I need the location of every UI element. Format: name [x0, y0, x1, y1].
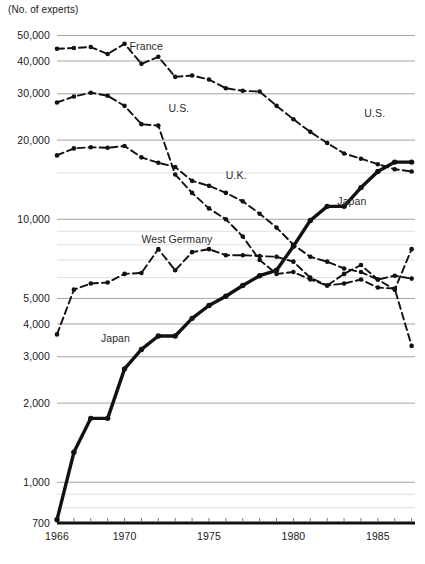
- data-point: [189, 316, 194, 321]
- series-line-u-k: [57, 146, 412, 280]
- data-point: [156, 123, 161, 128]
- data-point: [359, 263, 364, 268]
- data-point: [156, 333, 161, 338]
- y-axis-tick-label: 20,000: [17, 134, 50, 146]
- data-point: [207, 206, 212, 211]
- data-point: [105, 146, 110, 151]
- data-point: [190, 191, 195, 196]
- data-point: [325, 283, 330, 288]
- data-point: [240, 89, 245, 94]
- data-point: [392, 286, 397, 291]
- data-point: [122, 366, 127, 371]
- data-point: [359, 270, 364, 275]
- data-point: [224, 191, 229, 196]
- data-point: [173, 172, 178, 177]
- data-point: [139, 122, 144, 127]
- y-axis-tick-label: 2,000: [23, 397, 50, 409]
- data-point: [409, 247, 414, 252]
- data-point: [190, 73, 195, 78]
- data-point: [88, 45, 93, 50]
- y-axis-tick-label: 700: [32, 517, 50, 529]
- data-point: [291, 259, 296, 264]
- data-point: [392, 159, 397, 164]
- y-axis-tick-label: 40,000: [17, 55, 50, 67]
- data-point: [122, 104, 127, 109]
- y-axis-tick-label: 30,000: [17, 87, 50, 99]
- data-point: [55, 46, 60, 51]
- data-point: [156, 54, 161, 59]
- data-point: [190, 179, 195, 184]
- data-point: [291, 117, 296, 122]
- x-axis-tick-label: 1970: [113, 530, 137, 542]
- data-point: [308, 218, 313, 223]
- data-point: [173, 75, 178, 80]
- data-point: [240, 199, 245, 204]
- data-point: [139, 62, 144, 67]
- experts-line-chart: (No. of experts) 50,00040,00030,00020,00…: [0, 0, 425, 564]
- data-point: [324, 204, 329, 209]
- data-point: [274, 268, 279, 273]
- series-line-west-germany: [57, 249, 412, 346]
- data-point: [88, 416, 93, 421]
- data-point: [173, 268, 178, 273]
- chart-plot-area: 50,00040,00030,00020,00010,0005,0004,000…: [0, 0, 425, 564]
- data-point: [274, 225, 279, 230]
- data-point: [359, 156, 364, 161]
- data-point: [105, 280, 110, 285]
- data-point: [223, 293, 228, 298]
- x-axis-tick-label: 1966: [45, 530, 69, 542]
- data-point: [207, 184, 212, 189]
- series-label-japan-2: Japan: [337, 195, 366, 207]
- data-point: [72, 287, 77, 292]
- data-point: [224, 253, 229, 258]
- x-axis-tick-label: 1985: [366, 530, 390, 542]
- data-point: [55, 332, 60, 337]
- data-point: [224, 217, 229, 222]
- data-point: [240, 234, 245, 239]
- data-point: [342, 281, 347, 286]
- data-point: [409, 169, 414, 174]
- data-point: [342, 272, 347, 277]
- data-point: [240, 283, 245, 288]
- data-point: [71, 450, 76, 455]
- data-point: [139, 155, 144, 160]
- data-point: [409, 276, 414, 281]
- data-point: [72, 94, 77, 99]
- data-point: [257, 258, 262, 263]
- data-point: [206, 303, 211, 308]
- data-point: [257, 273, 262, 278]
- data-point: [190, 250, 195, 255]
- data-point: [55, 153, 60, 158]
- x-axis-tick-label: 1980: [282, 530, 306, 542]
- data-point: [308, 255, 313, 260]
- data-point: [376, 285, 381, 290]
- data-point: [342, 151, 347, 156]
- data-point: [376, 277, 381, 282]
- x-axis-tick-label: 1975: [197, 530, 221, 542]
- y-axis-tick-label: 50,000: [17, 29, 50, 41]
- y-axis-tick-label: 5,000: [23, 292, 50, 304]
- data-point: [257, 89, 262, 94]
- data-point: [72, 46, 77, 51]
- series-label-u-k: U.K.: [226, 169, 247, 181]
- data-point: [358, 185, 363, 190]
- data-point: [325, 141, 330, 146]
- data-point: [274, 255, 279, 260]
- data-point: [122, 41, 127, 46]
- data-point: [173, 333, 178, 338]
- data-point: [308, 275, 313, 280]
- data-point: [257, 254, 262, 259]
- data-point: [207, 247, 212, 252]
- data-point: [409, 344, 414, 349]
- data-point: [54, 517, 59, 522]
- data-point: [88, 145, 93, 150]
- data-point: [156, 247, 161, 252]
- y-axis-tick-label: 3,000: [23, 350, 50, 362]
- data-point: [291, 244, 296, 249]
- data-point: [325, 259, 330, 264]
- data-point: [72, 146, 77, 151]
- data-point: [274, 104, 279, 109]
- data-point: [105, 52, 110, 57]
- data-point: [156, 160, 161, 165]
- data-point: [105, 93, 110, 98]
